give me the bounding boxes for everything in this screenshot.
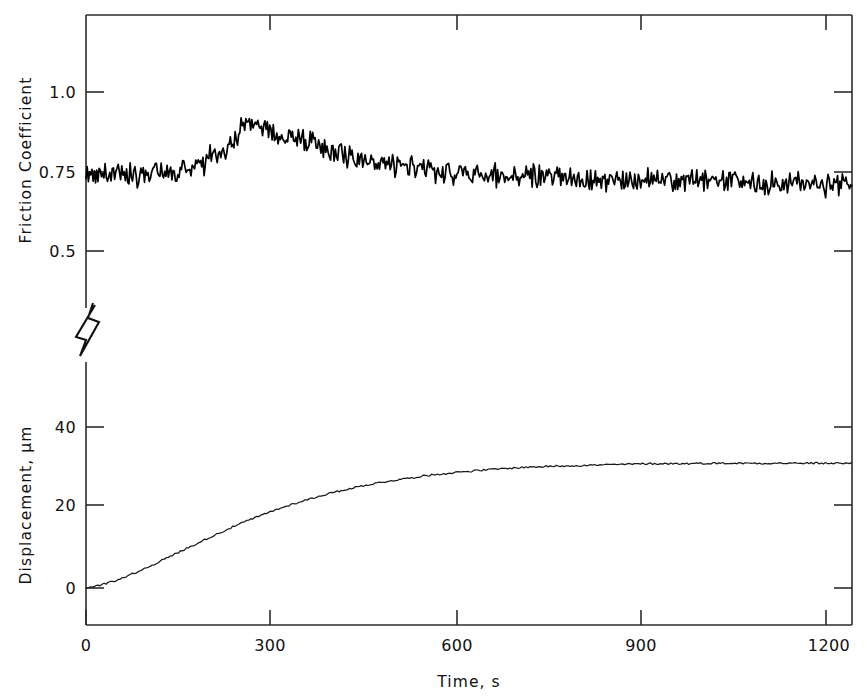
chart-svg: 0 300 600 900 1200 Time, s 1.0 0.75 0.5 …: [0, 0, 867, 699]
y-tick-label-disp-40: 40: [55, 418, 76, 437]
x-tick-label-300: 300: [254, 636, 286, 655]
friction-y-axis-label: Friction Coefficient: [17, 77, 35, 244]
x-axis-ticks-top: [270, 15, 826, 30]
friction-y-axis-tick-labels: 1.0 0.75 0.5: [39, 83, 76, 261]
y-tick-label-friction-0.75: 0.75: [39, 163, 76, 182]
figure-container: 0 300 600 900 1200 Time, s 1.0 0.75 0.5 …: [0, 0, 867, 699]
displacement-y-axis-tick-labels: 40 20 0: [55, 418, 76, 598]
friction-y-axis-ticks-right: [834, 92, 852, 251]
x-tick-label-0: 0: [81, 636, 92, 655]
displacement-y-axis-ticks: [86, 427, 104, 588]
x-axis-label: Time, s: [436, 673, 501, 691]
x-axis-ticks: [86, 610, 826, 625]
y-tick-label-disp-0: 0: [65, 579, 76, 598]
displacement-y-axis-label: Displacement, µm: [17, 426, 35, 585]
y-tick-label-disp-20: 20: [55, 496, 76, 515]
x-tick-label-1200: 1200: [808, 636, 850, 655]
x-tick-label-600: 600: [441, 636, 473, 655]
friction-coefficient-trace: [86, 118, 852, 198]
x-tick-label-900: 900: [625, 636, 657, 655]
x-axis-tick-labels: 0 300 600 900 1200: [81, 636, 850, 655]
displacement-y-axis-ticks-right: [834, 427, 852, 588]
displacement-trace: [86, 462, 852, 588]
axis-break-icon: [76, 303, 99, 356]
y-tick-label-friction-1.0: 1.0: [49, 83, 76, 102]
plot-frame: [86, 15, 852, 625]
y-tick-label-friction-0.5: 0.5: [49, 242, 76, 261]
